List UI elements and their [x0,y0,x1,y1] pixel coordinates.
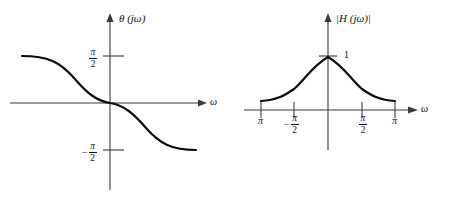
phase-plot: θ (jω) ω π 2 − π 2 [0,0,232,200]
phase-x-axis-label: ω [210,97,217,107]
phase-ytick-label-pi-over-2: π 2 [88,48,97,69]
magnitude-plot-canvas [232,0,465,200]
phase-y-axis-arrow [107,13,114,22]
magnitude-y-axis-arrow [325,13,332,22]
magnitude-plot: |H (jω)| ω 1 π − π 2 π 2 π [232,0,465,200]
magnitude-xtick-numerator-negative: π [291,114,298,124]
magnitude-xtick-denominator-negative: 2 [291,126,298,136]
magnitude-xtick-numerator-positive: π [360,114,367,124]
magnitude-xtick-sign-negative: − [284,120,290,130]
magnitude-x-axis-arrow [408,107,418,114]
magnitude-y-axis-label: |H (jω)| [336,13,371,24]
phase-x-axis-arrow [198,100,207,107]
magnitude-xtick-denominator-positive: 2 [360,126,367,136]
magnitude-xtick-label-pi: π [392,115,397,126]
magnitude-peak-label: 1 [344,50,349,60]
magnitude-xtick-label-negative-pi-over-2: − π 2 [284,114,299,135]
phase-ytick-fraction-positive: π 2 [89,48,97,69]
magnitude-xtick-label-pi-over-2: π 2 [358,114,367,135]
phase-plot-canvas [0,0,232,200]
phase-ytick-numerator-negative: π [89,142,96,152]
phase-ytick-fraction-negative: π 2 [89,142,97,163]
magnitude-xtick-label-negative-pi: π [258,115,263,126]
magnitude-xtick-fraction-positive: π 2 [359,114,367,135]
magnitude-x-axis-label: ω [421,104,428,114]
phase-ytick-numerator-positive: π [90,48,97,58]
phase-ytick-denominator-positive: 2 [90,60,97,70]
phase-ytick-label-negative-pi-over-2: − π 2 [82,142,97,163]
phase-y-axis-label: θ (jω) [119,13,145,24]
figure-pair: θ (jω) ω π 2 − π 2 [0,0,465,200]
phase-ytick-sign-negative: − [82,148,88,158]
phase-ytick-denominator-negative: 2 [89,154,96,164]
magnitude-xtick-fraction-negative: π 2 [291,114,299,135]
